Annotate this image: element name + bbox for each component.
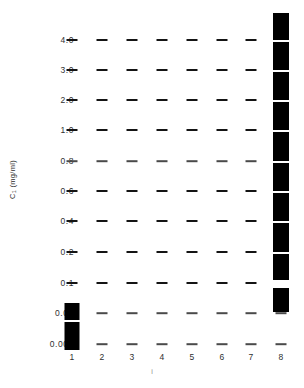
data-marker-dash — [187, 99, 198, 101]
x-axis-title: i — [151, 368, 153, 375]
x-axis-tick-label: 7 — [240, 352, 262, 362]
data-marker-block-lane-8 — [273, 254, 289, 280]
data-marker-dash — [67, 220, 78, 222]
data-marker-dash — [97, 69, 108, 71]
data-marker-dash — [97, 282, 108, 284]
x-axis-tick-label: 8 — [270, 352, 292, 362]
data-marker-dash — [217, 39, 228, 41]
data-marker-dash — [97, 39, 108, 41]
data-marker-block-lane-8 — [273, 193, 289, 221]
data-marker-dash — [97, 312, 108, 314]
data-marker-block-lane-8 — [273, 288, 289, 312]
data-marker-dash — [276, 343, 287, 345]
data-marker-dash — [217, 69, 228, 71]
data-marker-dash — [217, 220, 228, 222]
data-marker-dash — [187, 251, 198, 253]
data-marker-dash — [127, 39, 138, 41]
data-marker-dash — [67, 190, 78, 192]
data-marker-dash — [187, 129, 198, 131]
data-marker-dash — [97, 190, 108, 192]
y-axis-title-subscript: 1 — [11, 190, 17, 193]
x-axis-tick-label: 2 — [91, 352, 113, 362]
data-marker-dash — [97, 251, 108, 253]
data-marker-dash — [217, 251, 228, 253]
data-marker-dash — [246, 282, 257, 284]
data-marker-dash — [97, 160, 108, 162]
data-marker-dash — [187, 312, 198, 314]
data-marker-dash — [187, 190, 198, 192]
data-marker-dash — [187, 160, 198, 162]
data-marker-dash — [97, 343, 108, 345]
data-marker-dash — [157, 312, 168, 314]
data-marker-dash — [246, 312, 257, 314]
data-marker-dash — [246, 160, 257, 162]
data-marker-dash — [187, 69, 198, 71]
data-marker-dash — [67, 99, 78, 101]
data-marker-dash — [127, 343, 138, 345]
data-marker-dash — [217, 129, 228, 131]
data-marker-dash — [187, 39, 198, 41]
data-marker-block-lane-8 — [273, 42, 289, 70]
data-marker-dash — [97, 129, 108, 131]
data-marker-dash — [187, 343, 198, 345]
data-marker-dash — [67, 160, 78, 162]
data-marker-dash — [67, 251, 78, 253]
data-marker-dash — [157, 220, 168, 222]
data-marker-dash — [67, 69, 78, 71]
data-marker-dash — [246, 99, 257, 101]
data-marker-dash — [246, 220, 257, 222]
data-marker-dash — [217, 160, 228, 162]
data-marker-dash — [127, 220, 138, 222]
data-marker-block-lane-8 — [273, 72, 289, 100]
data-marker-dash — [97, 220, 108, 222]
data-marker-dash — [246, 190, 257, 192]
data-marker-dash — [127, 160, 138, 162]
data-marker-block-lane-8 — [273, 163, 289, 191]
data-marker-dash — [217, 282, 228, 284]
data-marker-dash — [157, 282, 168, 284]
data-marker-dash — [217, 312, 228, 314]
data-marker-dash — [246, 69, 257, 71]
data-marker-dash — [67, 39, 78, 41]
data-marker-dash — [97, 99, 108, 101]
data-marker-dash — [67, 129, 78, 131]
data-marker-dash — [127, 251, 138, 253]
data-marker-dash — [246, 129, 257, 131]
x-axis-tick-label: 3 — [121, 352, 143, 362]
data-marker-dash — [127, 129, 138, 131]
y-axis-title-symbol: C — [8, 193, 17, 199]
data-marker-dash — [157, 69, 168, 71]
data-marker-dash — [157, 160, 168, 162]
data-marker-block-lane-8 — [273, 102, 289, 130]
data-marker-dash — [246, 343, 257, 345]
data-marker-block-lane-8 — [273, 223, 289, 252]
data-marker-dash — [127, 190, 138, 192]
y-axis-title-units: (mg/ml) — [8, 160, 17, 190]
data-marker-dash — [67, 282, 78, 284]
data-marker-dash — [217, 343, 228, 345]
data-marker-dash — [246, 39, 257, 41]
data-marker-dash — [157, 99, 168, 101]
data-marker-dash — [157, 129, 168, 131]
x-axis-tick-label: 4 — [151, 352, 173, 362]
data-marker-block-lane-8 — [273, 132, 289, 161]
x-axis-tick-label: 5 — [181, 352, 203, 362]
data-marker-dash — [157, 39, 168, 41]
concentration-strip-chart: C1 (mg/ml) 4.03.02.01.00.80.60.40.20.10.… — [0, 0, 304, 388]
data-marker-dash — [187, 220, 198, 222]
y-axis-title: C1 (mg/ml) — [8, 135, 17, 225]
data-marker-block-lane-8 — [273, 13, 289, 40]
data-marker-dash — [127, 69, 138, 71]
data-marker-dash — [127, 282, 138, 284]
data-marker-dash — [217, 99, 228, 101]
data-marker-block-lane-1 — [65, 303, 80, 320]
data-marker-dash — [217, 190, 228, 192]
data-marker-dash — [246, 251, 257, 253]
data-marker-dash — [276, 312, 287, 314]
data-marker-dash — [187, 282, 198, 284]
x-axis-tick-label: 6 — [211, 352, 233, 362]
data-marker-block-lane-1 — [65, 322, 80, 350]
data-marker-dash — [127, 99, 138, 101]
data-marker-dash — [157, 251, 168, 253]
data-marker-dash — [157, 343, 168, 345]
